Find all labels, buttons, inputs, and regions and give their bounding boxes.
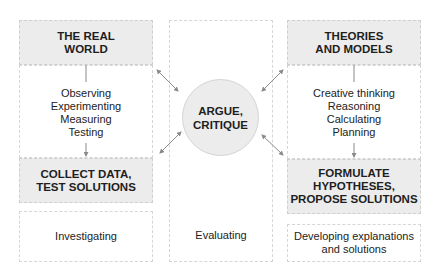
formulate-critique-arrow <box>262 135 283 155</box>
real-world-critique-arrow <box>157 70 178 91</box>
collect-critique-arrow <box>160 132 181 153</box>
connector-arrows <box>0 0 440 278</box>
theories-critique-arrow <box>262 70 283 91</box>
